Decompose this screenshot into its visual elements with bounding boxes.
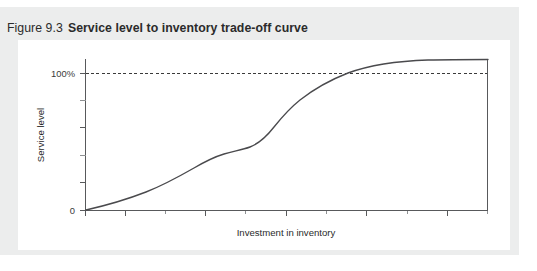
y-axis-zero-label: 0 [70,205,75,216]
x-axis-title: Investment in inventory [237,227,336,238]
x-axis-ticks [86,211,488,217]
trade-off-curve-line [86,60,488,211]
y-axis-top-label: 100% [51,68,75,79]
trade-off-curve-chart: 100% 0 Service level Investment in inven… [18,40,510,250]
figure-caption: Figure 9.3Service level to inventory tra… [7,21,308,35]
y-axis-ticks [80,74,86,211]
figure-container: Figure 9.3Service level to inventory tra… [0,0,537,271]
figure-number: Figure 9.3 [7,21,63,35]
y-axis-title: Service level [35,108,46,162]
figure-caption-band: Figure 9.3Service level to inventory tra… [0,7,519,40]
figure-title: Service level to inventory trade-off cur… [68,21,308,35]
